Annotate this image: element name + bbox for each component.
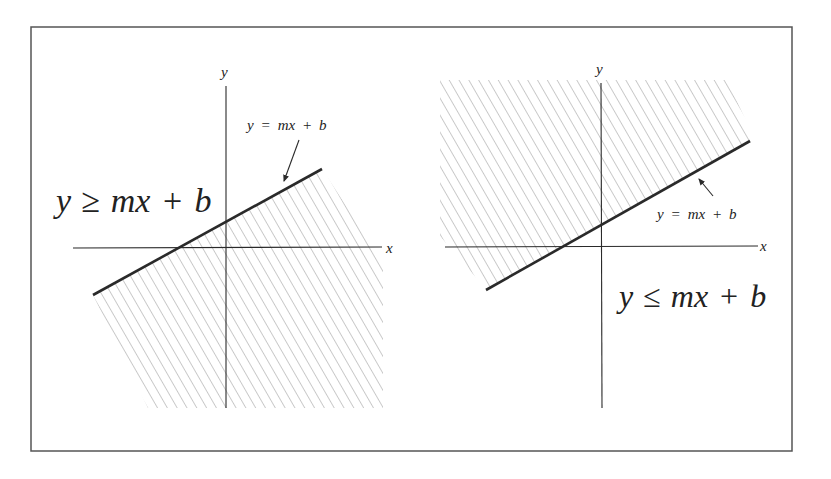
inequality-diagram: x y y = mx + b y ≥ mx + b x y y = mx + bbox=[0, 0, 831, 479]
right-y-axis-label: y bbox=[594, 61, 603, 77]
right-panel: x y y = mx + b y ≤ mx + b bbox=[440, 61, 767, 408]
right-x-axis-label: x bbox=[759, 238, 767, 254]
left-panel: x y y = mx + b y ≥ mx + b bbox=[53, 64, 393, 408]
right-boundary-label: y = mx + b bbox=[655, 206, 737, 222]
left-boundary-arrow bbox=[284, 140, 299, 181]
right-shaded-region bbox=[440, 80, 755, 289]
label-y: y bbox=[245, 117, 254, 133]
left-boundary-label: y = mx + b bbox=[245, 117, 327, 133]
label-eq: = bbox=[261, 117, 269, 133]
left-inequality-label: y ≥ mx + b bbox=[53, 182, 212, 219]
label-plus: + bbox=[303, 117, 311, 133]
right-inequality-label: y ≤ mx + b bbox=[616, 278, 766, 314]
left-y-axis-label: y bbox=[219, 64, 228, 80]
label-mx: mx bbox=[278, 117, 296, 133]
label-b: b bbox=[319, 117, 327, 133]
right-boundary-arrow bbox=[699, 179, 713, 196]
left-x-axis-label: x bbox=[385, 240, 393, 256]
